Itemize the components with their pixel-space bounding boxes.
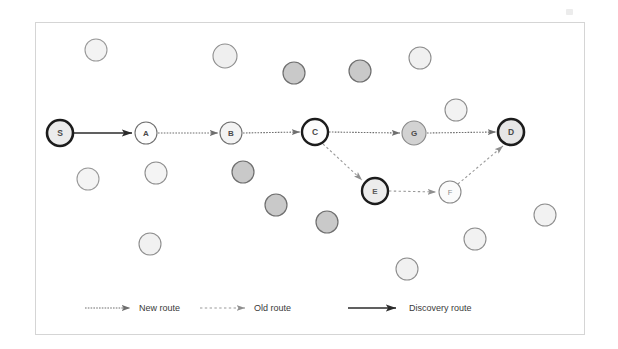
figure-frame — [36, 23, 585, 335]
background-node — [213, 44, 237, 68]
background-node — [534, 204, 556, 226]
legend-new-route-label: New route — [139, 303, 180, 313]
background-node — [139, 233, 161, 255]
background-node — [283, 62, 305, 84]
route-discovery-diagram: S A B C G D — [0, 0, 618, 349]
background-node — [232, 161, 254, 183]
background-node — [265, 194, 287, 216]
node-e[interactable]: E — [362, 178, 388, 204]
background-node — [445, 99, 467, 121]
node-c[interactable]: C — [302, 119, 328, 145]
node-b-label: B — [228, 129, 234, 138]
node-g[interactable]: G — [402, 121, 426, 145]
background-node — [145, 162, 167, 184]
node-g-label: G — [411, 129, 417, 138]
background-node — [85, 39, 107, 61]
node-a-label: A — [143, 129, 149, 138]
background-node — [409, 47, 431, 69]
node-a[interactable]: A — [135, 122, 157, 144]
background-node — [349, 60, 371, 82]
node-d-label: D — [508, 127, 514, 137]
node-b[interactable]: B — [220, 122, 242, 144]
legend-discovery-route-label: Discovery route — [409, 303, 472, 313]
background-node — [316, 211, 338, 233]
node-e-label: E — [372, 187, 378, 196]
figure-canvas: S A B C G D — [0, 0, 618, 349]
node-d[interactable]: D — [498, 119, 524, 145]
legend-old-route-label: Old route — [254, 303, 291, 313]
node-s-label: S — [57, 128, 63, 138]
node-c-label: C — [312, 127, 318, 137]
legend: New route Old route Discovery route — [85, 303, 472, 313]
background-node — [464, 228, 486, 250]
node-f[interactable]: F — [439, 181, 461, 203]
background-node — [396, 258, 418, 280]
node-f-label: F — [448, 188, 453, 197]
background-node — [77, 168, 99, 190]
node-s[interactable]: S — [47, 120, 73, 146]
